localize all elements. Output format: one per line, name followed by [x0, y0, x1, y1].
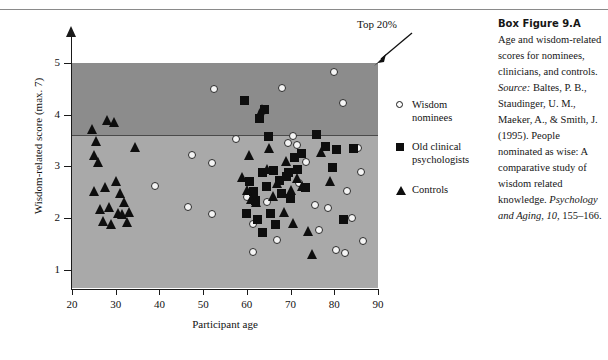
- caption-title: Box Figure 9.A: [498, 16, 602, 31]
- data-point-open-circle: [311, 201, 319, 209]
- data-point-filled-square: [286, 194, 295, 203]
- data-point-open-circle: [302, 158, 310, 166]
- top-20-percent-arrow-icon: [368, 30, 418, 68]
- x-axis-tick: [334, 289, 335, 295]
- data-point-open-circle: [341, 249, 349, 257]
- data-point-filled-square: [349, 144, 358, 153]
- data-point-open-circle: [232, 135, 240, 143]
- filled-triangle-icon: [396, 186, 406, 195]
- data-point-open-circle: [343, 187, 351, 195]
- data-point-filled-triangle: [264, 143, 274, 153]
- figure-caption: Box Figure 9.AAge and wisdom-related sco…: [498, 16, 602, 224]
- x-axis-tick: [159, 289, 160, 295]
- data-point-filled-triangle: [286, 185, 296, 195]
- data-point-filled-triangle: [87, 124, 97, 134]
- x-axis-tick: [247, 289, 248, 295]
- data-point-filled-triangle: [122, 217, 132, 227]
- x-axis-line: [71, 289, 379, 290]
- data-point-filled-triangle: [93, 157, 103, 167]
- data-point-filled-triangle: [307, 249, 317, 259]
- data-point-filled-triangle: [244, 150, 254, 160]
- x-axis-tick: [378, 289, 379, 295]
- legend-label-line1: Old clinical: [412, 140, 476, 153]
- data-point-open-circle: [208, 210, 216, 218]
- data-point-filled-triangle: [89, 186, 99, 196]
- legend-label-line1: Controls: [412, 183, 476, 196]
- data-point-open-circle: [151, 182, 159, 190]
- x-axis-tick-label: 80: [319, 298, 349, 310]
- filled-square-icon: [396, 143, 404, 151]
- x-axis-tick: [291, 289, 292, 295]
- data-point-filled-square: [262, 182, 271, 191]
- scatter-plot-figure: 543212030405060708090 Wisdom-related sco…: [0, 0, 460, 360]
- data-point-filled-triangle: [237, 172, 247, 182]
- data-point-filled-square: [242, 209, 251, 218]
- x-axis-title: Participant age: [72, 318, 378, 330]
- data-point-filled-triangle: [268, 191, 278, 201]
- y-axis-tick-label: 1: [40, 263, 60, 275]
- data-point-open-circle: [293, 141, 301, 149]
- data-point-open-circle: [359, 237, 367, 245]
- data-point-filled-triangle: [316, 147, 326, 157]
- data-point-open-circle: [357, 168, 365, 176]
- y-axis-tick: [64, 115, 72, 116]
- data-point-open-circle: [289, 132, 297, 140]
- caption-body-3: 155–166.: [560, 210, 602, 221]
- data-point-filled-triangle: [288, 218, 298, 228]
- y-axis-arrow-icon: [66, 26, 76, 37]
- x-axis-tick-label: 20: [57, 298, 87, 310]
- data-point-filled-triangle: [91, 136, 101, 146]
- x-axis-tick-label: 40: [144, 298, 174, 310]
- data-point-filled-triangle: [257, 104, 267, 114]
- x-axis-tick-label: 70: [276, 298, 306, 310]
- data-point-filled-triangle: [303, 226, 313, 236]
- data-point-filled-triangle: [124, 207, 134, 217]
- caption-body-1: Age and wisdom-related scores for nomine…: [498, 34, 601, 77]
- caption-body-2: Baltes, P. B., Staudinger, U. M., Maeker…: [498, 82, 598, 205]
- y-axis-tick: [64, 63, 72, 64]
- data-point-filled-square: [253, 215, 262, 224]
- data-point-filled-triangle: [111, 176, 121, 186]
- x-axis-tick-label: 60: [232, 298, 262, 310]
- data-point-open-circle: [188, 151, 196, 159]
- data-point-filled-triangle: [272, 178, 282, 188]
- data-point-filled-triangle: [100, 182, 110, 192]
- x-axis-tick-label: 30: [101, 298, 131, 310]
- data-point-open-circle: [315, 226, 323, 234]
- data-point-open-circle: [324, 204, 332, 212]
- data-point-open-circle: [249, 248, 257, 256]
- data-point-filled-triangle: [106, 219, 116, 229]
- data-point-filled-square: [258, 228, 267, 237]
- data-point-filled-triangle: [281, 156, 291, 166]
- data-point-open-circle: [184, 203, 192, 211]
- data-point-filled-square: [264, 132, 273, 141]
- x-axis-tick-label: 90: [363, 298, 393, 310]
- data-point-open-circle: [348, 214, 356, 222]
- data-point-filled-triangle: [251, 197, 261, 207]
- data-point-filled-triangle: [119, 197, 129, 207]
- data-point-filled-square: [332, 145, 341, 154]
- legend-label-line2: psychologists: [412, 153, 476, 166]
- data-point-filled-square: [297, 149, 306, 158]
- caption-source-label: Source:: [498, 82, 530, 93]
- data-point-filled-triangle: [109, 117, 119, 127]
- y-axis-tick: [64, 270, 72, 271]
- data-point-filled-square: [255, 114, 264, 123]
- figure-page: 543212030405060708090 Wisdom-related sco…: [0, 0, 608, 360]
- legend: Wisdom nominees Old clinical psychologis…: [396, 98, 476, 212]
- data-point-filled-square: [312, 130, 321, 139]
- plot-area: [72, 63, 378, 288]
- data-point-filled-square: [266, 209, 275, 218]
- x-axis-tick: [203, 289, 204, 295]
- legend-label-line1: Wisdom: [412, 98, 476, 111]
- data-point-open-circle: [273, 236, 281, 244]
- x-axis-tick: [116, 289, 117, 295]
- legend-label-line2: nominees: [412, 111, 476, 124]
- y-axis-line: [71, 34, 72, 290]
- x-axis-tick: [72, 289, 73, 295]
- data-point-filled-triangle: [279, 207, 289, 217]
- legend-item-old-clinical-psychologists: Old clinical psychologists: [396, 140, 476, 166]
- data-point-filled-square: [240, 96, 249, 105]
- data-point-open-circle: [278, 84, 286, 92]
- y-axis-title: Wisdom-related score (max. 7): [32, 46, 44, 246]
